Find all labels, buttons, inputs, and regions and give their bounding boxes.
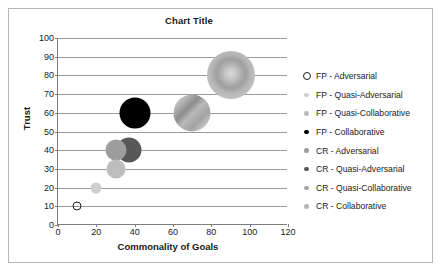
y-axis-tick-mark [55, 94, 58, 95]
legend-marker-icon [301, 111, 312, 116]
legend-item-cr-quasi-collaborative[interactable]: CR - Quasi-Collaborative [301, 179, 441, 198]
y-axis-tick-mark [55, 57, 58, 58]
legend-label: FP - Quasi-Collaborative [316, 108, 410, 118]
legend-marker-icon [301, 204, 312, 209]
legend-item-fp-quasi-collaborative[interactable]: FP - Quasi-Collaborative [301, 104, 441, 123]
bubble-cr-quasi-collaborative [174, 94, 211, 131]
legend-item-cr-collaborative[interactable]: CR - Collaborative [301, 197, 441, 216]
legend-swatch [304, 186, 309, 191]
legend-label: FP - Collaborative [316, 127, 385, 137]
y-axis-tick-mark [55, 113, 58, 114]
x-axis-tick-label: 100 [242, 227, 257, 237]
gridline [58, 132, 287, 133]
bubble-fp-quasi-collaborative [106, 159, 125, 178]
x-axis-tick-label: 80 [206, 227, 216, 237]
legend-item-cr-adversarial[interactable]: CR - Adversarial [301, 141, 441, 160]
y-axis-tick-mark [55, 188, 58, 189]
bubble-fp-collaborative [119, 97, 150, 128]
chart-title: Chart Title [69, 15, 309, 26]
y-axis-tick-label: 40 [44, 145, 54, 155]
bubble-cr-adversarial [105, 140, 126, 161]
gridline [58, 150, 287, 151]
y-axis-title: Trust [21, 89, 32, 149]
y-axis-tick-mark [55, 169, 58, 170]
bubble-fp-quasi-adversarial [91, 182, 102, 193]
chart-frame: Chart Title Trust 0102030405060708090100… [8, 8, 433, 263]
legend-item-fp-adversarial[interactable]: FP - Adversarial [301, 67, 441, 86]
y-axis-tick-label: 60 [44, 108, 54, 118]
legend-label: CR - Adversarial [316, 146, 379, 156]
legend-label: FP - Quasi-Adversarial [316, 90, 403, 100]
y-axis-tick-label: 20 [44, 183, 54, 193]
y-axis-tick-mark [55, 150, 58, 151]
plot-area: 0102030405060708090100 020406080100120 [57, 38, 287, 225]
chart-legend: FP - AdversarialFP - Quasi-AdversarialFP… [301, 67, 441, 216]
gridline [58, 169, 287, 170]
legend-swatch [304, 130, 308, 134]
legend-item-fp-collaborative[interactable]: FP - Collaborative [301, 123, 441, 142]
gridline [58, 113, 287, 114]
legend-item-cr-quasi-adversarial[interactable]: CR - Quasi-Adversarial [301, 160, 441, 179]
y-axis-tick-label: 30 [44, 164, 54, 174]
y-axis-tick-label: 100 [39, 33, 54, 43]
y-axis-tick-label: 10 [44, 201, 54, 211]
x-axis-title: Commonality of Goals [45, 241, 291, 252]
legend-item-fp-quasi-adversarial[interactable]: FP - Quasi-Adversarial [301, 86, 441, 105]
y-axis-tick-label: 90 [44, 52, 54, 62]
x-axis-tick-label: 40 [130, 227, 140, 237]
legend-label: CR - Quasi-Collaborative [316, 183, 412, 193]
legend-marker-icon [301, 148, 312, 153]
y-axis-tick-label: 0 [49, 220, 54, 230]
gridline [58, 94, 287, 95]
y-axis-tick-label: 80 [44, 70, 54, 80]
legend-swatch [304, 148, 309, 153]
legend-swatch [304, 167, 308, 171]
legend-swatch [304, 93, 309, 98]
y-axis-tick-label: 50 [44, 127, 54, 137]
legend-label: CR - Collaborative [316, 201, 386, 211]
gridline [58, 38, 287, 39]
x-axis-tick-label: 60 [168, 227, 178, 237]
gridline [58, 57, 287, 58]
x-axis-tick-label: 0 [55, 227, 60, 237]
legend-marker-icon [301, 72, 312, 80]
legend-swatch [303, 72, 311, 80]
y-axis-tick-mark [55, 132, 58, 133]
bubble-fp-adversarial [73, 202, 82, 211]
y-axis-tick-label: 70 [44, 89, 54, 99]
x-axis-tick-label: 120 [280, 227, 295, 237]
x-axis-tick-label: 20 [91, 227, 101, 237]
y-axis-tick-mark [55, 75, 58, 76]
legend-swatch [304, 204, 309, 209]
legend-marker-icon [301, 167, 312, 171]
y-axis-tick-mark [55, 206, 58, 207]
legend-label: FP - Adversarial [316, 71, 377, 81]
legend-marker-icon [301, 186, 312, 191]
legend-marker-icon [301, 93, 312, 98]
legend-label: CR - Quasi-Adversarial [316, 164, 404, 174]
y-axis-tick-mark [55, 38, 58, 39]
legend-swatch [304, 111, 309, 116]
legend-marker-icon [301, 130, 312, 134]
bubble-cr-collaborative [207, 51, 255, 99]
gridline [58, 206, 287, 207]
